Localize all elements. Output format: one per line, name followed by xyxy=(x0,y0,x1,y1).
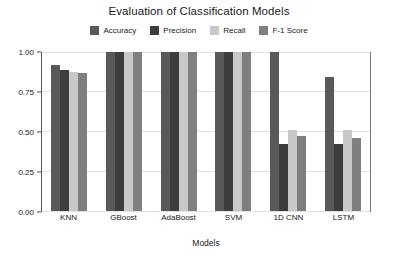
bar[interactable] xyxy=(170,52,179,211)
bar[interactable] xyxy=(124,52,133,211)
legend-swatch-icon xyxy=(150,26,159,35)
bar[interactable] xyxy=(352,138,361,211)
legend-swatch-icon xyxy=(259,26,268,35)
legend-swatch-icon xyxy=(210,26,219,35)
bar[interactable] xyxy=(133,52,142,211)
x-axis-tick-label: LSTM xyxy=(316,213,371,222)
bar[interactable] xyxy=(325,77,334,211)
bar[interactable] xyxy=(270,52,279,211)
chart-figure: Evaluation of Classification Models Accu… xyxy=(0,0,398,264)
bar-group xyxy=(97,52,152,211)
bar[interactable] xyxy=(334,144,343,211)
x-axis-tick-label: GBoost xyxy=(96,213,151,222)
bar[interactable] xyxy=(188,52,197,211)
bar-group xyxy=(151,52,206,211)
legend-item[interactable]: Precision xyxy=(150,26,196,35)
legend-label: Recall xyxy=(223,26,245,35)
legend-label: Precision xyxy=(163,26,196,35)
x-axis-label: Models xyxy=(41,238,371,248)
bar-groups xyxy=(42,52,370,211)
x-axis: KNNGBoostAdaBoostSVM1D CNNLSTM xyxy=(41,213,371,222)
bar[interactable] xyxy=(215,52,224,211)
bar[interactable] xyxy=(343,130,352,211)
y-axis-tick-label: 0.50 xyxy=(18,128,34,137)
bar[interactable] xyxy=(60,70,69,211)
bar-group xyxy=(261,52,316,211)
bar[interactable] xyxy=(288,130,297,211)
bar-group xyxy=(206,52,261,211)
bar[interactable] xyxy=(78,73,87,211)
plot-area xyxy=(41,52,371,212)
y-axis-tick-label: 0.25 xyxy=(18,168,34,177)
legend-label: F-1 Score xyxy=(272,26,307,35)
bar[interactable] xyxy=(161,52,170,211)
chart-title: Evaluation of Classification Models xyxy=(0,5,398,17)
bar[interactable] xyxy=(224,52,233,211)
legend-label: Accuracy xyxy=(103,26,136,35)
legend-item[interactable]: Recall xyxy=(210,26,245,35)
y-axis-tick-label: 0.75 xyxy=(18,88,34,97)
bar[interactable] xyxy=(106,52,115,211)
chart-legend: AccuracyPrecisionRecallF-1 Score xyxy=(0,26,398,35)
legend-item[interactable]: Accuracy xyxy=(90,26,136,35)
bar[interactable] xyxy=(179,52,188,211)
x-axis-tick-label: KNN xyxy=(41,213,96,222)
y-axis-tick-label: 1.00 xyxy=(18,48,34,57)
bar[interactable] xyxy=(297,136,306,211)
bar[interactable] xyxy=(279,144,288,211)
bar-group xyxy=(42,52,97,211)
bar[interactable] xyxy=(115,52,124,211)
legend-item[interactable]: F-1 Score xyxy=(259,26,307,35)
bar[interactable] xyxy=(233,52,242,211)
x-axis-tick-label: SVM xyxy=(206,213,261,222)
y-axis-tick-label: 0.00 xyxy=(18,208,34,217)
bar[interactable] xyxy=(69,72,78,211)
x-axis-tick-label: 1D CNN xyxy=(261,213,316,222)
bar[interactable] xyxy=(242,52,251,211)
y-axis: 0.000.250.500.751.00 xyxy=(0,52,41,212)
legend-swatch-icon xyxy=(90,26,99,35)
bar-group xyxy=(315,52,370,211)
bar[interactable] xyxy=(51,65,60,211)
x-axis-tick-label: AdaBoost xyxy=(151,213,206,222)
